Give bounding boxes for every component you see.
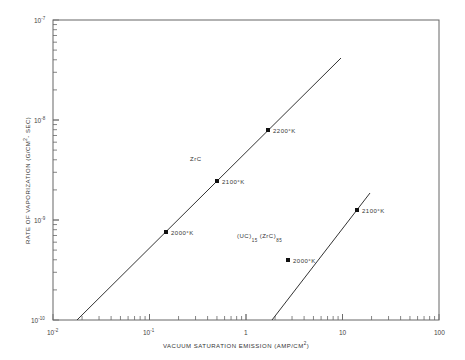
uc-point-2000 xyxy=(286,258,290,262)
y-tick-1e-7: 10-7 xyxy=(34,16,46,24)
zrc-label-2200: 2200°K xyxy=(273,128,296,134)
uc-label-2000: 2000°K xyxy=(293,258,316,264)
x-tick-1e-2: 10-2 xyxy=(47,328,59,336)
x-tick-10: 10 xyxy=(339,329,347,336)
uc-point-2100 xyxy=(355,208,359,212)
zrc-point-2200 xyxy=(266,128,270,132)
y-tick-1e-9: 10-9 xyxy=(34,216,46,224)
x-tick-100: 100 xyxy=(434,329,445,336)
y-tick-labels: 10-7 10-8 10-9 10-10 xyxy=(31,16,46,324)
x-axis-ticks xyxy=(53,314,439,320)
y-tick-1e-10: 10-10 xyxy=(31,316,45,324)
uc-label-2100: 2100°K xyxy=(362,208,385,214)
x-tick-1e-1: 10-1 xyxy=(143,328,155,336)
x-tick-1: 1 xyxy=(244,329,248,336)
chart: 10-7 10-8 10-9 10-10 10-2 10-1 1 10 100 … xyxy=(0,0,465,360)
zrc-annotation: ZrC xyxy=(190,156,202,162)
y-axis-title: RATE OF VAPORIZATION (G/CM2- SEC) xyxy=(23,117,31,244)
zrc-point-2100 xyxy=(215,179,219,183)
uc-zrc-annotation: (UC)15(ZrC)85 xyxy=(237,233,282,243)
zrc-label-2000: 2000°K xyxy=(171,230,194,236)
uc-zrc-line xyxy=(272,193,370,320)
zrc-point-2000 xyxy=(164,230,168,234)
zrc-label-2100: 2100°K xyxy=(222,179,245,185)
zrc-line xyxy=(77,58,341,320)
x-tick-labels: 10-2 10-1 1 10 100 xyxy=(47,328,445,336)
x-axis-title: VACUUM SATURATION EMISSION (AMP/CM2) xyxy=(163,341,309,349)
plot-frame xyxy=(53,20,439,320)
y-tick-1e-8: 10-8 xyxy=(34,116,46,124)
y-axis-ticks xyxy=(53,20,59,320)
